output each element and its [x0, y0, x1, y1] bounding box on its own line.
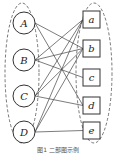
right-node-set: abcde [83, 11, 100, 139]
node-a: a [83, 11, 100, 28]
figure-caption: 图1 二部图示例 [0, 146, 116, 154]
node-label: C [20, 91, 28, 102]
edge-D-b [35, 49, 83, 133]
node-label: e [89, 125, 95, 136]
node-label: c [89, 72, 95, 83]
node-label: d [88, 100, 94, 111]
node-D: D [13, 121, 35, 143]
edge-D-e [35, 131, 83, 133]
node-c: c [83, 69, 100, 86]
node-label: D [19, 127, 28, 138]
node-label: B [19, 55, 27, 66]
node-C: C [13, 85, 35, 107]
node-label: b [88, 43, 94, 54]
node-label: a [89, 14, 95, 25]
node-d: d [83, 97, 100, 114]
node-b: b [83, 40, 100, 57]
node-e: e [83, 122, 100, 139]
node-B: B [13, 49, 35, 71]
left-node-set: ABCD [13, 12, 35, 143]
edge-C-a [35, 20, 83, 97]
edge-C-d [35, 96, 83, 106]
node-A: A [13, 12, 35, 34]
node-label: A [19, 18, 27, 29]
bipartite-graph: ABCD abcde [0, 0, 116, 156]
